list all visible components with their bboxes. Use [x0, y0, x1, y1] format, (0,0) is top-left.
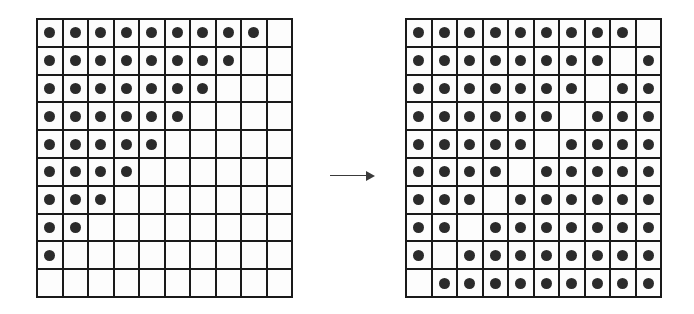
grid-cell-filled — [64, 103, 88, 129]
grid-cell-empty — [268, 242, 292, 268]
grid-cell-filled — [560, 159, 584, 185]
grid-cell-empty — [166, 215, 190, 241]
grid-cell-empty — [268, 270, 292, 296]
grid-cell-filled — [115, 76, 139, 102]
grid-cell-filled — [38, 131, 62, 157]
grid-cell-filled — [535, 76, 559, 102]
grid-cell-filled — [433, 159, 457, 185]
grid-cell-filled — [433, 270, 457, 296]
grid-cell-filled — [586, 270, 610, 296]
grid-cell-filled — [89, 187, 113, 213]
grid-cell-filled — [38, 103, 62, 129]
grid-cell-filled — [484, 48, 508, 74]
grid-cell-filled — [560, 131, 584, 157]
grid-cell-filled — [509, 20, 533, 46]
grid-cell-filled — [586, 103, 610, 129]
grid-cell-filled — [509, 131, 533, 157]
grid-cell-filled — [191, 20, 215, 46]
grid-cell-filled — [509, 270, 533, 296]
grid-cell-filled — [586, 131, 610, 157]
grid-cell-filled — [458, 187, 482, 213]
grid-cell-filled — [535, 159, 559, 185]
grid-cell-empty — [242, 48, 266, 74]
grid-cell-filled — [89, 159, 113, 185]
grid-cell-filled — [535, 215, 559, 241]
grid-cell-empty — [268, 20, 292, 46]
grid-cell-empty — [217, 103, 241, 129]
grid-cell-empty — [458, 215, 482, 241]
grid-cell-filled — [191, 76, 215, 102]
grid-cell-filled — [433, 20, 457, 46]
grid-cell-filled — [458, 103, 482, 129]
grid-cell-filled — [637, 242, 661, 268]
grid-cell-filled — [560, 20, 584, 46]
grid-cell-filled — [458, 131, 482, 157]
grid-cell-filled — [407, 76, 431, 102]
grid-cell-filled — [433, 187, 457, 213]
grid-cell-empty — [217, 159, 241, 185]
grid-cell-filled — [115, 131, 139, 157]
grid-cell-empty — [242, 187, 266, 213]
grid-cell-empty — [166, 187, 190, 213]
grid-cell-empty — [89, 242, 113, 268]
grid-cell-empty — [484, 187, 508, 213]
grid-cell-filled — [637, 159, 661, 185]
grid-cell-filled — [166, 103, 190, 129]
grid-cell-filled — [586, 20, 610, 46]
grid-cell-filled — [586, 187, 610, 213]
grid-cell-filled — [458, 270, 482, 296]
grid-cell-filled — [64, 76, 88, 102]
grid-cell-filled — [89, 20, 113, 46]
grid-cell-filled — [64, 131, 88, 157]
grid-cell-filled — [433, 103, 457, 129]
grid-cell-filled — [484, 270, 508, 296]
grid-cell-empty — [242, 215, 266, 241]
grid-cell-filled — [586, 242, 610, 268]
grid-cell-empty — [191, 270, 215, 296]
grid-cell-empty — [191, 131, 215, 157]
grid-cell-filled — [433, 76, 457, 102]
grid-cell-empty — [166, 159, 190, 185]
grid-cell-filled — [140, 76, 164, 102]
grid-cell-filled — [535, 242, 559, 268]
grid-cell-filled — [535, 103, 559, 129]
grid-cell-filled — [560, 242, 584, 268]
grid-cell-empty — [115, 187, 139, 213]
grid-cell-filled — [407, 159, 431, 185]
grid-cell-filled — [586, 215, 610, 241]
grid-cell-empty — [166, 242, 190, 268]
grid-cell-filled — [242, 20, 266, 46]
grid-cell-filled — [509, 48, 533, 74]
grid-cell-empty — [140, 187, 164, 213]
grid-cell-filled — [217, 20, 241, 46]
grid-cell-filled — [611, 20, 635, 46]
grid-cell-filled — [611, 76, 635, 102]
grid-cell-filled — [140, 103, 164, 129]
grid-cell-empty — [89, 215, 113, 241]
grid-cell-filled — [611, 242, 635, 268]
grid-cell-filled — [89, 131, 113, 157]
grid-cell-filled — [458, 48, 482, 74]
grid-cell-filled — [458, 159, 482, 185]
grid-cell-empty — [268, 215, 292, 241]
grid-cell-filled — [191, 48, 215, 74]
arrow-head-icon — [366, 171, 375, 181]
grid-cell-empty — [115, 242, 139, 268]
grid-cell-filled — [611, 270, 635, 296]
grid-cell-filled — [535, 20, 559, 46]
grid-cell-empty — [64, 270, 88, 296]
grid-cell-empty — [535, 131, 559, 157]
grid-cell-filled — [89, 76, 113, 102]
grid-cell-filled — [115, 103, 139, 129]
grid-cell-filled — [64, 48, 88, 74]
grid-cell-filled — [38, 20, 62, 46]
grid-cell-filled — [115, 48, 139, 74]
grid-cell-filled — [535, 187, 559, 213]
grid-cell-filled — [560, 187, 584, 213]
grid-cell-filled — [115, 20, 139, 46]
grid-cell-empty — [268, 187, 292, 213]
grid-cell-filled — [560, 215, 584, 241]
grid-cell-filled — [407, 187, 431, 213]
grid-cell-filled — [64, 159, 88, 185]
grid-cell-filled — [637, 215, 661, 241]
